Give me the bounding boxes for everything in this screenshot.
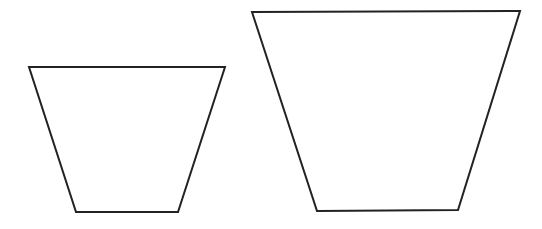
large-trapezoid xyxy=(252,11,520,211)
diagram-canvas xyxy=(0,0,542,229)
diagram-svg xyxy=(0,0,542,229)
small-trapezoid xyxy=(29,67,225,212)
